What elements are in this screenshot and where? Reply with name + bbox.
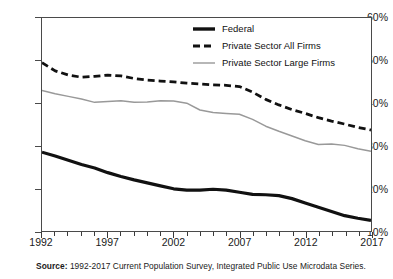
legend-label: Private Sector Large Firms (222, 58, 335, 68)
x-tick-mark-minor (67, 232, 68, 236)
x-tick-mark-minor (293, 232, 294, 236)
x-tick-mark-minor (54, 232, 55, 236)
legend-swatch-icon (193, 58, 215, 68)
legend-swatch-icon (193, 41, 215, 51)
x-tick-label: 2017 (347, 237, 393, 248)
x-tick-mark-minor (160, 232, 161, 236)
legend-item[interactable]: Private Sector All Firms (193, 39, 361, 53)
x-tick-mark-minor (120, 232, 121, 236)
x-tick-mark-minor (253, 232, 254, 236)
x-tick-label: 2007 (215, 237, 265, 248)
legend-item[interactable]: Private Sector Large Firms (193, 56, 361, 70)
x-tick-mark-minor (81, 232, 82, 236)
x-tick-mark-minor (187, 232, 188, 236)
chart-legend: FederalPrivate Sector All FirmsPrivate S… (193, 22, 361, 73)
x-tick-mark-minor (134, 232, 135, 236)
source-text: 1992-2017 Current Population Survey, Int… (68, 261, 366, 271)
x-tick-mark-minor (346, 232, 347, 236)
x-tick-mark-minor (319, 232, 320, 236)
source-caption: Source: 1992-2017 Current Population Sur… (36, 261, 388, 271)
legend-item[interactable]: Federal (193, 22, 361, 36)
x-tick-label: 1992 (16, 237, 66, 248)
legend-label: Private Sector All Firms (222, 41, 321, 51)
x-tick-label: 2002 (148, 237, 198, 248)
x-tick-mark-minor (147, 232, 148, 236)
x-tick-mark-minor (200, 232, 201, 236)
x-tick-mark-minor (359, 232, 360, 236)
x-tick-mark-minor (332, 232, 333, 236)
x-tick-mark-minor (279, 232, 280, 236)
series-line (42, 90, 371, 151)
legend-swatch-icon (193, 24, 215, 34)
x-tick-mark-minor (213, 232, 214, 236)
x-tick-mark-minor (94, 232, 95, 236)
series-line (42, 152, 371, 220)
legend-label: Federal (222, 24, 254, 34)
x-tick-label: 2012 (281, 237, 331, 248)
x-tick-mark-minor (266, 232, 267, 236)
x-tick-mark-minor (226, 232, 227, 236)
source-label: Source: (36, 261, 68, 271)
x-tick-label: 1997 (82, 237, 132, 248)
